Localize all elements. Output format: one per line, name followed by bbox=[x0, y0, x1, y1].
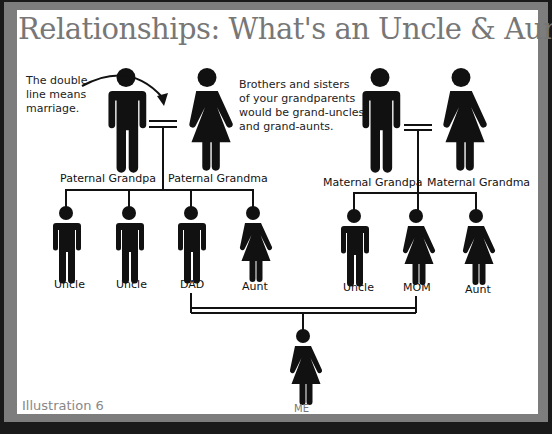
uncle-icon bbox=[116, 206, 144, 284]
uncle-icon bbox=[53, 206, 81, 284]
aunt-icon bbox=[463, 209, 495, 285]
aunt-icon bbox=[240, 206, 272, 282]
label-aunt: Aunt bbox=[465, 283, 491, 296]
label-maternal-grandpa: Maternal Grandpa bbox=[323, 176, 422, 189]
label-uncle: Uncle bbox=[116, 278, 147, 291]
label-uncle: Uncle bbox=[343, 281, 374, 294]
label-maternal-grandma: Maternal Grandma bbox=[427, 176, 530, 189]
label-aunt: Aunt bbox=[242, 280, 268, 293]
paternal-grandma-icon bbox=[189, 68, 232, 171]
maternal-grandma-icon bbox=[443, 68, 486, 171]
family-tree bbox=[0, 0, 552, 434]
label-paternal-grandpa: Paternal Grandpa bbox=[60, 172, 156, 185]
label-dad: DAD bbox=[180, 278, 204, 291]
label-me: ME bbox=[294, 403, 309, 414]
label-paternal-grandma: Paternal Grandma bbox=[168, 172, 268, 185]
me-icon bbox=[290, 329, 322, 405]
maternal-grandpa-icon bbox=[362, 68, 400, 173]
mom-icon bbox=[403, 209, 435, 285]
label-mom: MOM bbox=[403, 281, 431, 294]
dad-icon bbox=[178, 206, 206, 284]
uncle-icon bbox=[341, 209, 369, 287]
caption: Illustration 6 bbox=[22, 398, 104, 413]
label-uncle: Uncle bbox=[54, 278, 85, 291]
arrow-head-icon bbox=[157, 93, 168, 106]
paternal-grandpa-icon bbox=[108, 68, 146, 173]
